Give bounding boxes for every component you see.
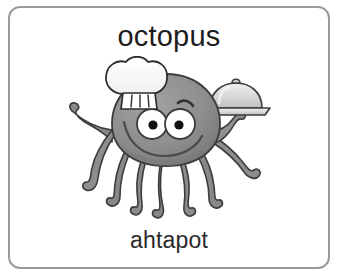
octopus-chef-illustration [54,56,284,224]
flashcard: octopus [8,6,330,269]
page-title: octopus [10,20,328,52]
translation-label: ahtapot [10,227,328,253]
